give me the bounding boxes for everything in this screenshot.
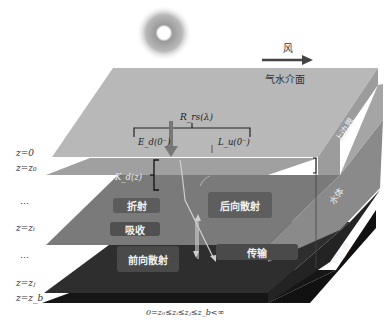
depth-label-z-z0: z=z₀ <box>16 163 37 173</box>
depth-label-z-zi: z=zᵢ <box>16 223 35 233</box>
sun-icon <box>136 5 192 61</box>
wind-label: 风 <box>283 43 293 54</box>
surface-label: 气水介面 <box>265 73 305 85</box>
ed-label: E_d(0⁻) <box>137 137 170 148</box>
depth-ordering-formula: 0=z₀≤zᵢ≤zⱼ≤z_b<∞ <box>146 308 224 317</box>
upper-boundary-bracket <box>313 158 316 173</box>
depth-label-z0-surface: z=0 <box>16 148 34 158</box>
depth-ellipsis-2: … <box>20 250 30 260</box>
lu-label: L_u(0⁻) <box>217 137 250 148</box>
process-absorption: 吸收 <box>110 222 160 236</box>
wind-arrow-icon <box>262 55 313 65</box>
process-refraction: 折射 <box>113 198 160 213</box>
depth-ellipsis-1: … <box>20 196 30 206</box>
depth-label-z-zb: z=z_b <box>16 293 43 303</box>
layered-water-column-illustration: 风 气水介面 R_rs(λ) E_d(0⁻) L_u(0⁻) K_d(z) 上边… <box>0 0 392 335</box>
rrs-label: R_rs(λ) <box>179 112 213 123</box>
process-backscatter: 后向散射 <box>208 192 272 218</box>
process-transmission: 传输 <box>216 244 298 260</box>
radiative-transfer-diagram: 风 气水介面 R_rs(λ) E_d(0⁻) L_u(0⁻) K_d(z) 上边… <box>0 0 392 335</box>
depth-label-z-zj: z=zⱼ <box>16 278 35 288</box>
kd-label: K_d(z) <box>114 172 142 183</box>
process-forward-scatter: 前向散射 <box>117 246 179 272</box>
